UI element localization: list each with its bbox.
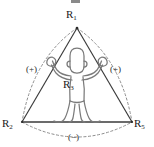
- figure-crotch: [70, 101, 84, 103]
- bottom-right-vertex-dot: [131, 121, 133, 123]
- figure-foot-left: [54, 121, 59, 122]
- vertex-label-center-sub: 3: [70, 84, 74, 92]
- diagram-graphics: [0, 0, 154, 147]
- vertex-label-apex: R1: [66, 9, 77, 20]
- figure-inner-leg-right: [79, 104, 85, 122]
- bottom-left-vertex-dot: [21, 121, 23, 123]
- annotation-left-sign: (+): [26, 65, 37, 74]
- vertex-label-center: R3: [63, 79, 74, 90]
- figure-leg-right: [84, 101, 95, 122]
- figure-leg-left: [59, 101, 70, 122]
- dashed-arc-group: [22, 28, 132, 137]
- figure-head: [70, 48, 84, 73]
- figure-torso-right: [83, 77, 84, 101]
- human-figure: [47, 48, 107, 122]
- annotation-right-sign: (+): [110, 65, 121, 74]
- vertex-label-bottom-left-sub: 2: [9, 123, 13, 131]
- triangle-outline: [22, 28, 132, 122]
- vertex-label-bottom-right: R5: [134, 118, 145, 129]
- diagram-canvas: R1 R2 R3 R5 (+) (+) (−): [0, 0, 154, 147]
- figure-foot-right: [95, 121, 100, 122]
- annotation-bottom-sign: (−): [68, 133, 79, 142]
- vertex-label-apex-sub: 1: [73, 14, 77, 22]
- vertex-label-bottom-left: R2: [2, 118, 13, 129]
- apex-vertex-dot: [76, 27, 79, 30]
- vertex-label-bottom-right-sub: 5: [141, 123, 145, 131]
- figure-inner-leg-left: [69, 104, 75, 122]
